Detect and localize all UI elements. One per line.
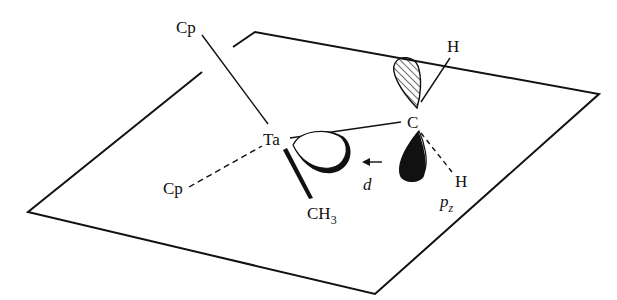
label-ch3: CH3 — [307, 204, 337, 227]
bond-ta-cp-bottom — [189, 146, 262, 187]
pz-upper-lobe — [394, 58, 421, 108]
label-pz-sub: z — [448, 201, 454, 215]
donation-arrow — [362, 158, 382, 166]
pz-lower-lobe — [405, 131, 426, 176]
label-h-top: H — [447, 37, 459, 56]
d-orbital-lobe — [293, 131, 351, 173]
tantalum-methylidene-diagram: Cp Cp Ta C H H CH3 d pz — [0, 0, 617, 300]
label-ta: Ta — [263, 130, 280, 149]
diagram-canvas: Cp Cp Ta C H H CH3 d pz — [0, 0, 617, 300]
label-h-bottom: H — [455, 172, 467, 191]
label-c: C — [407, 113, 418, 132]
label-ch3-main: CH — [307, 204, 331, 223]
bond-ta-cp-top — [202, 35, 268, 124]
label-pz: pz — [439, 192, 454, 215]
label-d-orbital: d — [363, 175, 372, 194]
label-cp-bottom: Cp — [163, 179, 183, 198]
label-pz-main: p — [439, 192, 449, 211]
label-cp-top: Cp — [176, 18, 196, 37]
label-ch3-sub: 3 — [331, 213, 337, 227]
